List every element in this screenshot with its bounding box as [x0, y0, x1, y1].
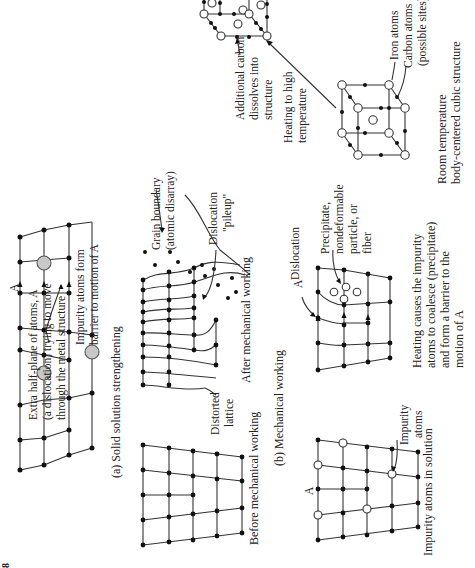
label-precip-3: particle, or [347, 204, 360, 254]
label-heating-1: Heating to high [282, 71, 295, 143]
label-precip-2: nondeformable [333, 184, 345, 254]
arrowhead [59, 284, 64, 289]
label-iron-atoms: Iron atoms [388, 10, 400, 60]
caption-precip-3: and form a barrier to the [438, 251, 452, 368]
iron-leader [392, 62, 395, 80]
label-pileup-2: "pileup" [221, 194, 234, 232]
label-dislocation-3: through the metal structure [55, 296, 68, 420]
pileup-leader [204, 250, 216, 298]
label-room-temp-1: Room temperature [435, 94, 449, 184]
label-additional-1: Additional carbon [234, 36, 246, 120]
label-before-working: Before mechanical working [247, 412, 261, 545]
label-pileup-1: Dislocation [207, 192, 219, 245]
label-precip-4: fiber [361, 232, 373, 254]
precipitate-particles [330, 283, 361, 303]
label-dislocation-2: (a dislocation) trying to move [41, 283, 54, 420]
caption-a: (a) Solid solution strengthening [109, 326, 123, 478]
fcc-atoms [200, 0, 271, 40]
label-impurity-1: Impurity atoms form [74, 249, 87, 345]
precipitate-lattice [318, 268, 390, 370]
impurity-leader [394, 440, 397, 470]
caption-precip-4: motion of A [452, 310, 466, 368]
label-dislocation-1: Extra half-plane of atoms, A [27, 289, 40, 420]
label-distorted-2: lattice [223, 399, 235, 427]
marker-a-solution: A [303, 486, 315, 495]
carbon-leader [398, 66, 406, 96]
panel-a-solid-solution: A Extra half-plane of atoms, A (a disloc… [8, 222, 123, 478]
precipitate-atoms [316, 266, 393, 373]
label-carbon-1: Carbon atoms [402, 3, 414, 68]
label-dislocation: Dislocation [289, 227, 301, 280]
strengthening-mechanisms-figure: A Extra half-plane of atoms, A (a disloc… [0, 0, 475, 568]
label-carbon-2: (possible sites) [416, 0, 429, 66]
panel-d-carbon-in-iron: Additional carbon dissolves into structu… [200, 0, 463, 184]
corner-mark: 8 [0, 563, 11, 568]
bcc-atoms [338, 81, 409, 159]
marker-a: A [8, 283, 20, 292]
label-room-temp-2: body-centered cubic structure [449, 41, 463, 184]
label-grain-2: (atomic disarray) [164, 171, 177, 250]
label-grain-1: Grain boundary [150, 177, 163, 250]
label-distorted-1: Distorted [209, 392, 221, 435]
label-precip-1: Precipitate, [319, 202, 332, 254]
impurity-atom [85, 345, 99, 359]
caption-precip-2: atoms to coalesce (precipitate) [424, 222, 438, 368]
label-after-working: After mechanical working [239, 257, 253, 383]
impurity-atom [37, 256, 51, 270]
label-heating-2: temperature [296, 88, 309, 143]
label-additional-3: structure [262, 80, 274, 120]
caption-b: (b) Mechanical working [272, 350, 286, 466]
panel-c-precipitation: A Dislocation Precipitate, nondeformable… [289, 184, 466, 556]
label-impurity-2: barrier to motion of A [88, 243, 100, 345]
label-additional-2: dissolves into [248, 57, 260, 120]
dislocation-leader [302, 297, 314, 315]
caption-solution: Impurity atoms in solution [421, 428, 435, 556]
caption-precip-1: Heating causes the impurity [410, 234, 424, 368]
label-impurity-1: Impurity [398, 405, 411, 445]
panel-b-mechanical-working: Grain boundary (atomic disarray) Disloca… [141, 171, 286, 547]
